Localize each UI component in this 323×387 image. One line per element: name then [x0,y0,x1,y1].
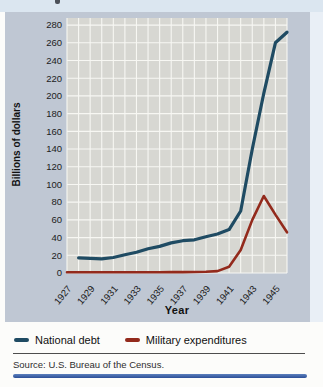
y-tick-label: 200 [46,90,62,101]
legend-item-military-expenditures: Military expenditures [125,334,247,346]
x-tick-label: 1945 [260,283,282,306]
chart-svg: 0204060801001201401601802002202402602801… [5,12,310,322]
y-tick-label: 260 [46,37,62,48]
y-tick-label: 120 [46,161,62,172]
x-tick-label: 1929 [75,283,97,306]
x-tick-label: 1927 [52,283,74,306]
y-tick-label: 40 [51,232,62,243]
x-tick-label: 1937 [167,283,189,306]
top-strip [0,0,323,12]
bottom-accent-rule [13,374,307,378]
y-tick-label: 180 [46,108,62,119]
y-tick-label: 140 [46,143,62,154]
x-tick-label: 1935 [144,283,166,306]
y-axis-title: Billions of dollars [11,70,22,220]
y-tick-label: 280 [46,19,62,30]
legend: National debt Military expenditures [14,334,272,346]
legend-label-national-debt: National debt [35,334,100,346]
separator-rule [13,353,305,354]
y-tick-label: 60 [51,214,62,225]
legend-label-military-expenditures: Military expenditures [146,334,247,346]
national-debt-line-swatch [14,338,29,341]
y-tick-label: 80 [51,196,62,207]
x-axis-title: Year [67,304,287,316]
cropped-title-mark [55,0,60,4]
right-margin-strip [310,12,323,322]
x-tick-label: 1943 [237,283,259,306]
y-tick-label: 0 [57,267,62,278]
x-tick-label: 1939 [190,283,212,306]
x-tick-label: 1941 [214,283,236,306]
y-tick-label: 240 [46,55,62,66]
y-tick-label: 100 [46,179,62,190]
y-tick-label: 20 [51,250,62,261]
chart-band: 0204060801001201401601802002202402602801… [5,12,310,322]
y-tick-label: 160 [46,126,62,137]
x-tick-label: 1931 [98,283,120,306]
y-tick-label: 220 [46,73,62,84]
legend-item-national-debt: National debt [14,334,100,346]
x-tick-label: 1933 [121,283,143,306]
military-expenditures-line-swatch [125,338,140,341]
chart-panel: 0204060801001201401601802002202402602801… [0,0,323,387]
source-note: Source: U.S. Bureau of the Census. [13,359,164,370]
